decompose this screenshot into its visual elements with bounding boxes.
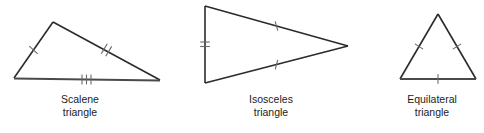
isosceles-caption: Isosceles triangle [225, 93, 317, 119]
scalene-caption: Scalene triangle [40, 93, 120, 119]
scalene-right-side [53, 22, 160, 80]
equilateral-caption-line-2: triangle [380, 106, 484, 119]
equilateral-caption-line-1: Equilateral [380, 93, 484, 106]
scalene-caption-line-2: triangle [40, 106, 120, 119]
triangle-types-figure: Scalene triangle Isosceles triangle Equi… [0, 0, 484, 133]
isosceles-caption-line-2: triangle [225, 106, 317, 119]
scalene-triangle-shape [14, 22, 160, 84]
scalene-left-tick-1 [29, 46, 37, 54]
equilateral-triangle-shape [400, 14, 476, 84]
equilateral-right-tick-1 [453, 44, 461, 49]
scalene-right-tick-2 [101, 44, 111, 56]
isosceles-triangle-shape [200, 6, 348, 83]
equilateral-left-tick-1 [415, 44, 423, 49]
isosceles-caption-line-1: Isosceles [225, 93, 317, 106]
equilateral-caption: Equilateral triangle [380, 93, 484, 119]
scalene-caption-line-1: Scalene [40, 93, 120, 106]
